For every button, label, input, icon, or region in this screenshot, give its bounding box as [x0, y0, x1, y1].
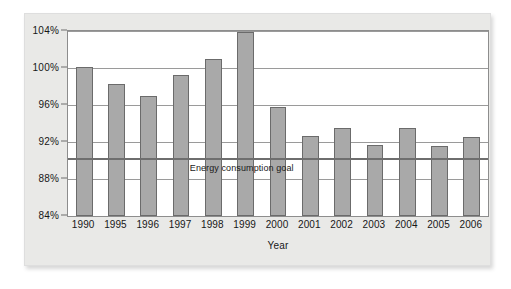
x-tick-label: 2006 [460, 219, 483, 230]
y-tick-label: 96% [38, 99, 59, 110]
x-axis: 1990199519961997199819992000200120022003… [67, 219, 489, 235]
bar [237, 32, 254, 216]
goal-line [68, 158, 488, 160]
bar [270, 107, 287, 216]
bar [431, 146, 448, 216]
bar [108, 84, 125, 216]
y-tick-label: 92% [38, 136, 59, 147]
x-tick-label: 2000 [266, 219, 289, 230]
x-axis-title: Year [67, 240, 489, 251]
bar [173, 75, 190, 216]
bar-series [68, 31, 488, 216]
plot-area: Energy consumption goal [67, 30, 489, 217]
bar [76, 67, 93, 216]
x-tick-label: 1990 [72, 219, 95, 230]
x-tick-label: 1999 [233, 219, 256, 230]
chart-card: 84%88%92%96%100%104% Energy consumption … [24, 13, 491, 266]
x-tick-label: 2001 [298, 219, 321, 230]
y-axis: 84%88%92%96%100%104% [25, 30, 67, 217]
x-tick-label: 1996 [136, 219, 159, 230]
x-tick-label: 2005 [427, 219, 450, 230]
y-tick-label: 88% [38, 173, 59, 184]
x-tick-label: 1998 [201, 219, 224, 230]
bar [140, 96, 157, 216]
bar [399, 128, 416, 216]
x-tick-label: 2004 [395, 219, 418, 230]
x-tick-label: 2003 [363, 219, 386, 230]
bar [463, 137, 480, 216]
y-tick-label: 104% [33, 25, 59, 36]
bar [205, 59, 222, 216]
y-tick-label: 84% [38, 210, 59, 221]
bar [367, 145, 384, 216]
bar [334, 128, 351, 216]
x-tick-label: 1997 [169, 219, 192, 230]
x-tick-label: 1995 [104, 219, 127, 230]
goal-line-label: Energy consumption goal [190, 163, 294, 173]
x-tick-label: 2002 [330, 219, 353, 230]
bar [302, 136, 319, 216]
y-tick-label: 100% [33, 62, 59, 73]
